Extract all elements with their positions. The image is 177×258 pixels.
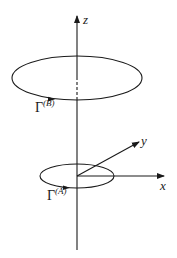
z-axis-label: z bbox=[82, 12, 88, 27]
y-axis bbox=[77, 142, 139, 176]
x-axis-label: x bbox=[159, 178, 166, 193]
loop-b-label: Γ(B) bbox=[35, 98, 55, 115]
loop-a-label: Γ(A) bbox=[47, 186, 67, 203]
y-axis-label: y bbox=[139, 133, 147, 148]
diagram-figure: z Γ(B) Γ(A) x y bbox=[0, 0, 177, 258]
